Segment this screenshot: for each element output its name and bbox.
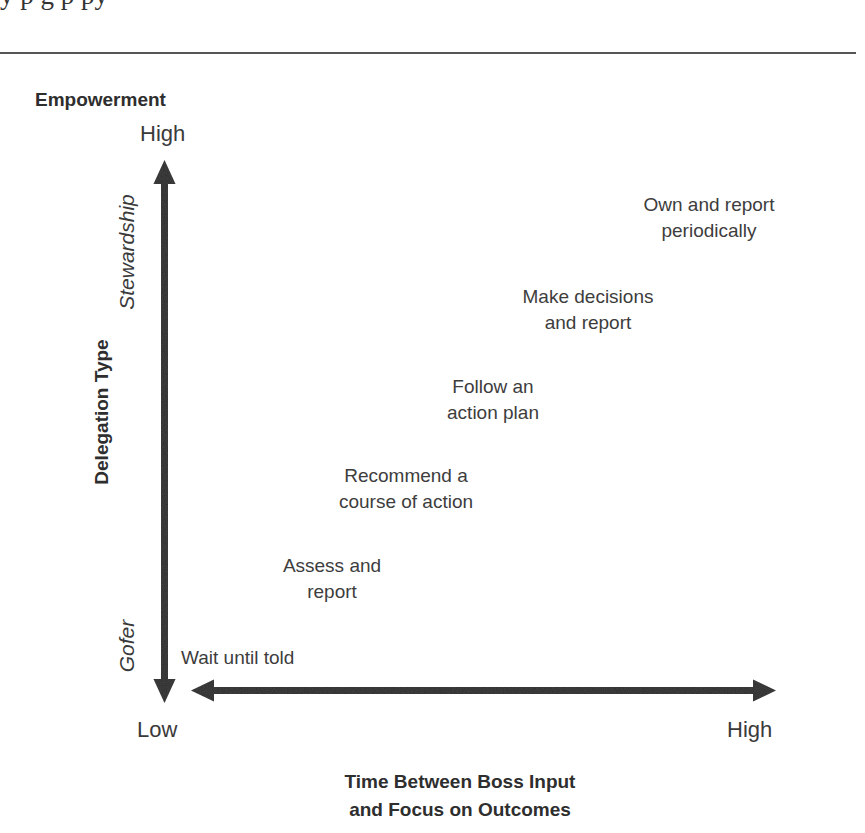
step-line2: and report — [523, 310, 654, 336]
axes-arrows — [0, 0, 865, 833]
step-line2: course of action — [339, 489, 473, 515]
y-axis-high-label: High — [140, 121, 185, 147]
step-line2: report — [283, 579, 381, 605]
stewardship-label: Stewardship — [115, 194, 139, 310]
arrow-left-icon — [191, 680, 214, 702]
x-axis-low-label: Low — [137, 717, 177, 743]
arrow-down-icon — [154, 679, 176, 703]
step-follow-action-plan: Follow an action plan — [447, 374, 539, 426]
horizontal-axis-arrow — [191, 680, 776, 702]
y-axis-title: Empowerment — [35, 89, 166, 111]
x-axis-title-line1: Time Between Boss Input — [345, 768, 576, 796]
step-line1: Make decisions — [523, 284, 654, 310]
step-recommend-course: Recommend a course of action — [339, 463, 473, 515]
vertical-axis-arrow — [154, 160, 176, 703]
step-line1: Follow an — [447, 374, 539, 400]
arrow-right-icon — [753, 680, 776, 702]
x-axis-high-label: High — [727, 717, 772, 743]
x-axis-title-line2: and Focus on Outcomes — [345, 796, 576, 824]
delegation-type-label: Delegation Type — [91, 339, 113, 484]
step-own-and-report: Own and report periodically — [644, 192, 775, 244]
step-make-decisions: Make decisions and report — [523, 284, 654, 336]
step-line1: Assess and — [283, 553, 381, 579]
gofer-label: Gofer — [115, 620, 139, 673]
arrow-up-icon — [154, 160, 176, 184]
x-axis-title: Time Between Boss Input and Focus on Out… — [345, 768, 576, 824]
step-line2: action plan — [447, 400, 539, 426]
step-wait-until-told: Wait until told — [181, 645, 294, 671]
step-line1: Recommend a — [339, 463, 473, 489]
step-line1: Own and report — [644, 192, 775, 218]
step-line2: periodically — [644, 218, 775, 244]
step-assess-and-report: Assess and report — [283, 553, 381, 605]
step-line1: Wait until told — [181, 645, 294, 671]
